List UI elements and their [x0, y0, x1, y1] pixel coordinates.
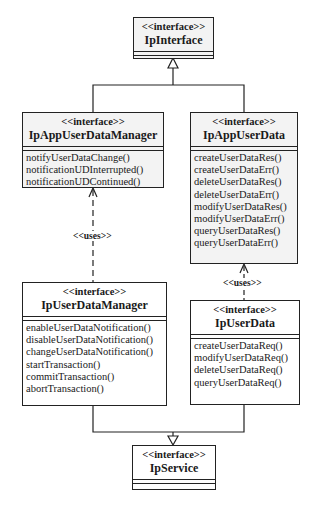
operation: deleteUserDataReq() — [194, 364, 296, 376]
operation: queryUserDataErr() — [194, 237, 294, 249]
class-ipappuserdata: <<interface>> IpAppUserData createUserDa… — [190, 112, 298, 264]
operation: enableUserDataNotification() — [26, 322, 163, 334]
operation: startTransaction() — [26, 359, 163, 371]
uses-label-right: <<uses>> — [222, 278, 263, 288]
stereotype: <<interface>> — [136, 21, 211, 33]
class-ipuserdata: <<interface>> IpUserData createUserDataR… — [190, 300, 300, 405]
class-header: <<interface>> IpAppUserData — [191, 113, 297, 147]
operations-compartment: createUserDataRes() createUserDataErr() … — [191, 151, 297, 252]
operation: notifyUserDataChange() — [26, 152, 160, 164]
class-name: IpUserData — [193, 316, 297, 331]
operations-compartment: enableUserDataNotification() disableUser… — [23, 321, 166, 397]
operation: createUserDataErr() — [194, 164, 294, 176]
operation: modifyUserDataRes() — [194, 201, 294, 213]
class-header: <<interface>> IpUserData — [191, 301, 299, 335]
operation: disableUserDataNotification() — [26, 334, 163, 346]
operation: notificationUDContinued() — [26, 176, 160, 188]
operation: createUserDataReq() — [194, 340, 296, 352]
class-header: <<interface>> IpInterface — [134, 18, 213, 52]
operation: notificationUDInterrupted() — [26, 164, 160, 176]
attributes-compartment — [134, 52, 213, 56]
class-header: <<interface>> IpUserDataManager — [23, 283, 166, 317]
operation: modifyUserDataErr() — [194, 213, 294, 225]
operation: deleteUserDataErr() — [194, 189, 294, 201]
operation: createUserDataRes() — [194, 152, 294, 164]
operations-compartment: notifyUserDataChange() notificationUDInt… — [23, 151, 163, 191]
class-ipservice: <<interface>> IpService — [132, 445, 216, 490]
uses-label-left: <<uses>> — [72, 231, 113, 241]
operation: commitTransaction() — [26, 371, 163, 383]
class-name: IpService — [135, 461, 213, 476]
generalization-to-ipservice — [93, 404, 244, 445]
attributes-compartment — [133, 480, 215, 484]
stereotype: <<interface>> — [25, 116, 161, 128]
operation: deleteUserDataRes() — [194, 176, 294, 188]
class-header: <<interface>> IpAppUserDataManager — [23, 113, 163, 147]
class-name: IpInterface — [136, 33, 211, 48]
stereotype: <<interface>> — [193, 304, 297, 316]
class-ipuserdatamanager: <<interface>> IpUserDataManager enableUs… — [22, 282, 167, 406]
class-name: IpUserDataManager — [25, 298, 164, 313]
class-header: <<interface>> IpService — [133, 446, 215, 480]
operation: changeUserDataNotification() — [26, 346, 163, 358]
generalization-to-ipinterface — [93, 58, 244, 112]
operation: modifyUserDataReq() — [194, 352, 296, 364]
class-ipinterface: <<interface>> IpInterface — [133, 17, 214, 59]
operation: queryUserDataReq() — [194, 377, 296, 389]
stereotype: <<interface>> — [193, 116, 295, 128]
operation: queryUserDataRes() — [194, 225, 294, 237]
stereotype: <<interface>> — [135, 449, 213, 461]
operation: abortTransaction() — [26, 383, 163, 395]
operations-compartment: createUserDataReq() modifyUserDataReq() … — [191, 339, 299, 391]
class-name: IpAppUserData — [193, 128, 295, 143]
class-ipappuserdatamanager: <<interface>> IpAppUserDataManager notif… — [22, 112, 164, 188]
class-name: IpAppUserDataManager — [25, 128, 161, 143]
stereotype: <<interface>> — [25, 286, 164, 298]
